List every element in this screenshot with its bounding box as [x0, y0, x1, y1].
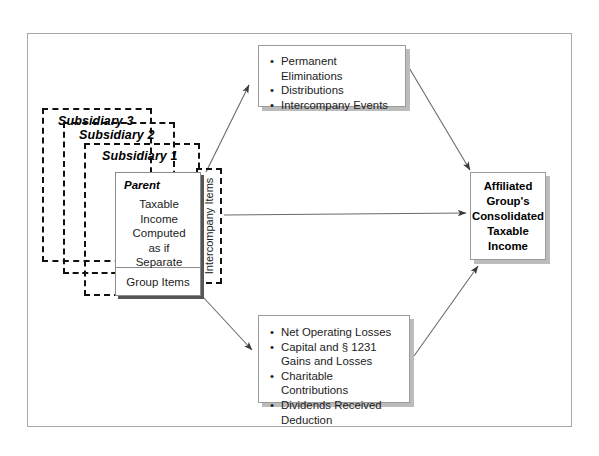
arrow-parent-to-result	[224, 213, 466, 215]
bullet-text: Intercompany Events	[281, 99, 388, 111]
bullet-text-continued: Gains and Losses	[281, 354, 401, 369]
result-line-5: Income	[472, 239, 544, 254]
result-line-4: Taxable	[472, 224, 544, 239]
result-text: Affiliated Group's Consolidated Taxable …	[472, 179, 544, 254]
parent-block: Parent TaxableIncomeComputedas ifSeparat…	[115, 172, 201, 296]
bullet-item: Net Operating Losses	[269, 325, 401, 340]
result-line-2: Group's	[472, 194, 544, 209]
bullet-text: Dividends Received	[281, 399, 382, 411]
diagram-canvas: Subsidiary 3 Subsidiary 2 Subsidiary 1 I…	[0, 0, 599, 456]
parent-title: Parent	[124, 179, 160, 191]
arrow-group-to-bottom	[203, 297, 252, 350]
bullet-item: Charitable Contributions	[269, 369, 401, 398]
parent-body-line: as if	[116, 241, 202, 256]
bullet-item: Permanent Eliminations	[269, 54, 397, 83]
bullet-text-continued: Deduction	[281, 413, 401, 428]
top-adjustments-list: Permanent EliminationsDistributionsInter…	[269, 54, 397, 112]
bullet-text: Net Operating Losses	[281, 326, 391, 338]
bullet-item: Dividends ReceivedDeduction	[269, 398, 401, 427]
bullet-item: Intercompany Events	[269, 98, 397, 113]
parent-body-line: Income	[116, 212, 202, 227]
group-items-box: Group Items	[115, 268, 201, 296]
bullet-text: Capital and § 1231	[281, 341, 377, 353]
subsidiary-label-2: Subsidiary 2	[79, 128, 155, 142]
bullet-text: Charitable Contributions	[281, 370, 348, 397]
bullet-item: Distributions	[269, 83, 397, 98]
result-line-1: Affiliated	[472, 179, 544, 194]
bullet-text: Distributions	[281, 84, 344, 96]
parent-body-line: Taxable	[116, 197, 202, 212]
top-adjustments-box: Permanent EliminationsDistributionsInter…	[258, 45, 406, 107]
group-items-label: Group Items	[126, 276, 189, 288]
bullet-text: Permanent Eliminations	[281, 55, 342, 82]
bottom-adjustments-box: Net Operating LossesCapital and § 1231Ga…	[258, 315, 410, 403]
arrow-parent-to-top	[206, 85, 249, 172]
subsidiary-label-1: Subsidiary 1	[102, 149, 178, 163]
consolidated-taxable-income-box: Affiliated Group's Consolidated Taxable …	[470, 172, 546, 260]
parent-body-text: TaxableIncomeComputedas ifSeparate	[116, 197, 202, 270]
arrow-top-to-result	[408, 66, 470, 170]
bullet-item: Capital and § 1231Gains and Losses	[269, 340, 401, 369]
bottom-adjustments-list: Net Operating LossesCapital and § 1231Ga…	[269, 325, 401, 427]
result-line-3: Consolidated	[472, 209, 544, 224]
parent-box: Parent TaxableIncomeComputedas ifSeparat…	[115, 172, 201, 268]
arrow-bottom-to-result	[414, 266, 478, 356]
parent-body-line: Computed	[116, 226, 202, 241]
